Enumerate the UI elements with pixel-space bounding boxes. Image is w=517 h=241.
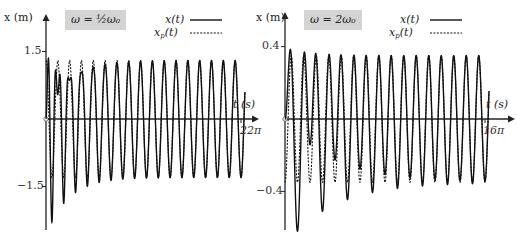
right-ytick-top: 0.4 [262,40,280,52]
right-xtick-end: 16π [483,125,504,137]
left-legend-x-label: x(t) [165,14,184,26]
left-chart-panel: x (m) ω = ½ω₀ t (s) 1.5 −1.5 22π x(t) xp… [0,0,260,241]
left-chart-plot [0,0,260,241]
left-legend-xp-label: xp(t) [154,27,178,42]
right-curve-x [285,49,489,231]
right-omega-box: ω = 2ω₀ [304,10,362,30]
right-x-arrow-icon [508,116,515,123]
left-y-arrow-icon [43,14,50,21]
right-legend-xp-label: xp(t) [389,27,413,42]
left-x-axis-label: t (s) [233,99,255,111]
right-x-axis-label: t (s) [486,99,508,111]
left-ytick-top: 1.5 [24,45,42,57]
left-omega-box: ω = ½ω₀ [65,10,126,30]
right-chart-panel: x (m) ω = 2ω₀ t (s) 0.4 −0.4 16π x(t) xp… [258,0,517,241]
left-curve-x [46,58,245,222]
left-y-axis-label: x (m) [4,12,33,24]
left-ytick-bottom: −1.5 [17,180,44,192]
right-legend-x-label: x(t) [400,14,419,26]
right-chart-plot [258,0,517,241]
right-y-axis-label: x (m) [256,12,285,24]
right-ytick-bottom: −0.4 [256,185,283,197]
